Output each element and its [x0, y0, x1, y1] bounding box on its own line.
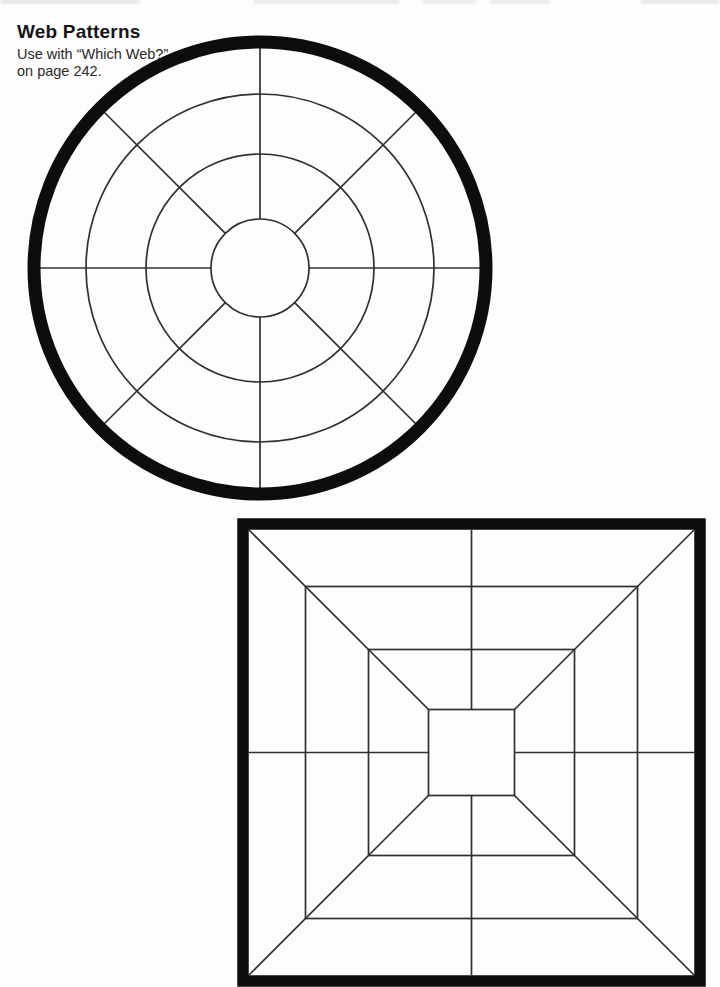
page-title: Web Patterns	[17, 22, 168, 42]
circle-web-pattern	[34, 42, 486, 494]
square-web-diagonal	[249, 796, 429, 976]
scan-smudge	[422, 0, 477, 4]
scan-smudge	[641, 0, 720, 4]
circle-web-spoke	[295, 112, 417, 234]
worksheet-page: Web Patterns Use with “Which Web?” on pa…	[0, 0, 720, 987]
circle-web-ring	[211, 219, 309, 317]
page-subtitle-line1: Use with “Which Web?”	[17, 46, 168, 63]
page-subtitle-line2: on page 242.	[17, 63, 168, 80]
page-header: Web Patterns Use with “Which Web?” on pa…	[17, 22, 168, 80]
square-web-diagonal	[249, 530, 429, 710]
square-web-diagonal	[515, 796, 695, 976]
circle-web-spoke	[104, 112, 226, 234]
scan-smudge	[490, 0, 550, 4]
square-web-center-square	[429, 710, 515, 796]
web-patterns-canvas	[0, 0, 720, 987]
circle-web-spoke	[104, 303, 226, 425]
scan-smudge	[0, 0, 140, 4]
square-web-pattern	[243, 524, 700, 981]
scan-smudge	[253, 0, 400, 4]
square-web-diagonal	[515, 530, 695, 710]
scan-artifact-strip	[0, 0, 720, 8]
circle-web-spoke	[295, 303, 417, 425]
